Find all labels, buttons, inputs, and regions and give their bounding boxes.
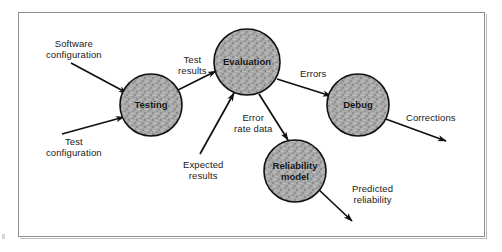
diagram-canvas: TestingEvaluationDebugReliability model … [0, 0, 502, 252]
edge-label-predicted-reliability: Predicted reliability [352, 183, 393, 205]
edge-label-test-results: Test results [178, 54, 207, 76]
edge-label-error-rate-data: Error rate data [234, 112, 272, 134]
edge-label-software-configuration: Software configuration [46, 38, 102, 60]
arrow-reliability-to-predicted [317, 188, 352, 221]
edge-label-expected-results: Expected results [183, 159, 223, 181]
edge-label-errors: Errors [300, 68, 326, 79]
arrow-test-configuration-to-testing [62, 117, 124, 134]
edge-label-corrections: Corrections [406, 112, 456, 123]
node-label-testing: Testing [134, 100, 167, 111]
node-label-reliability: Reliability model [273, 161, 318, 182]
edge-label-test-configuration: Test configuration [46, 136, 102, 158]
arrow-software-configuration-to-testing [71, 63, 127, 93]
arrow-expected-results-to-evaluation [200, 93, 234, 154]
arrow-evaluation-to-debug [277, 79, 331, 96]
node-label-evaluation: Evaluation [223, 57, 271, 68]
node-label-debug: Debug [343, 100, 373, 111]
